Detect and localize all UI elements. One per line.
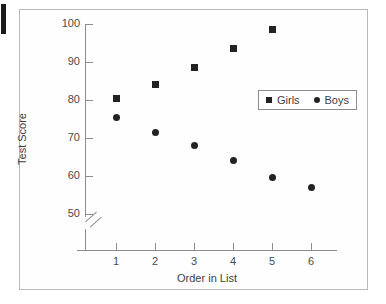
square-marker-icon xyxy=(266,97,272,103)
data-point-boys[interactable] xyxy=(308,184,315,191)
data-point-girls[interactable] xyxy=(230,45,237,52)
data-point-boys[interactable] xyxy=(269,174,276,181)
data-point-boys[interactable] xyxy=(152,129,159,136)
y-axis-line xyxy=(85,24,86,217)
x-tick-label: 2 xyxy=(145,255,165,267)
x-tick xyxy=(116,243,117,250)
data-point-boys[interactable] xyxy=(230,157,237,164)
data-point-girls[interactable] xyxy=(113,95,120,102)
scatter-plot: 5060708090100 123456 Test Score Order in… xyxy=(0,0,386,304)
legend-item-boys[interactable]: Boys xyxy=(314,94,349,106)
y-tick xyxy=(86,100,93,101)
data-point-girls[interactable] xyxy=(191,64,198,71)
x-tick xyxy=(311,243,312,250)
y-axis-line-lower xyxy=(85,229,86,251)
x-tick-label: 3 xyxy=(184,255,204,267)
y-tick-label: 100 xyxy=(50,18,80,29)
x-tick-label: 4 xyxy=(223,255,243,267)
x-axis-line xyxy=(77,250,337,251)
y-tick xyxy=(86,62,93,63)
x-tick-label: 1 xyxy=(106,255,126,267)
x-tick-label: 6 xyxy=(301,255,321,267)
x-tick xyxy=(194,243,195,250)
x-tick xyxy=(272,243,273,250)
page-canvas: 5060708090100 123456 Test Score Order in… xyxy=(0,0,386,304)
legend-label-boys: Boys xyxy=(325,94,349,106)
data-point-boys[interactable] xyxy=(191,142,198,149)
data-point-girls[interactable] xyxy=(269,26,276,33)
legend-item-girls[interactable]: Girls xyxy=(266,94,300,106)
y-tick-label: 90 xyxy=(50,56,80,67)
circle-marker-icon xyxy=(314,97,320,103)
y-tick xyxy=(86,24,93,25)
y-tick-label: 70 xyxy=(50,132,80,143)
y-axis-title: Test Score xyxy=(16,99,28,179)
y-tick xyxy=(86,214,93,215)
y-tick-label: 50 xyxy=(50,208,80,219)
x-tick xyxy=(155,243,156,250)
data-point-girls[interactable] xyxy=(152,81,159,88)
x-axis-title: Order in List xyxy=(137,272,277,284)
y-axis-break-icon xyxy=(78,216,96,232)
y-tick-label: 60 xyxy=(50,170,80,181)
y-tick-label-group: 5060708090100 xyxy=(48,0,80,304)
y-tick xyxy=(86,138,93,139)
y-tick xyxy=(86,176,93,177)
x-tick-label: 5 xyxy=(262,255,282,267)
legend-label-girls: Girls xyxy=(277,94,300,106)
y-tick-label: 80 xyxy=(50,94,80,105)
legend-box: Girls Boys xyxy=(258,90,357,110)
x-tick xyxy=(233,243,234,250)
data-point-boys[interactable] xyxy=(113,114,120,121)
